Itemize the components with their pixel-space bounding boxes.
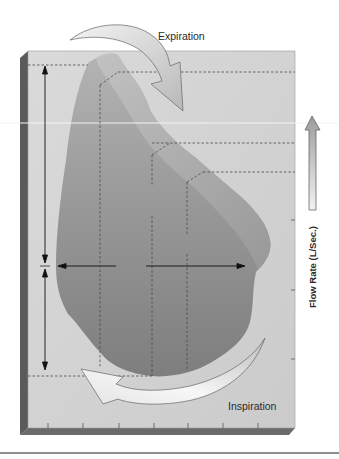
inspiration-label: Inspiration bbox=[228, 400, 277, 412]
y-axis-label: Flow Rate (L/Sec.) bbox=[307, 226, 318, 308]
flow-rate-arrow-icon bbox=[305, 116, 320, 210]
expiration-label: Expiration bbox=[158, 30, 205, 42]
flow-volume-diagram: Expiration Inspiration Flow Rate (L/Sec.… bbox=[0, 0, 339, 459]
